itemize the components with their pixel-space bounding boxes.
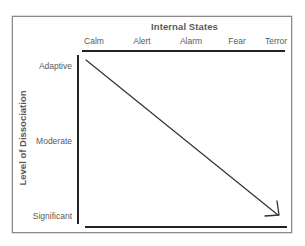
diagonal-arrow-icon bbox=[0, 0, 305, 246]
